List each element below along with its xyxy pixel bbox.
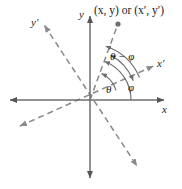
x-prime-axis-label: x′	[157, 58, 164, 69]
y-axis-label: y	[79, 9, 84, 20]
y-prime-axis-label: y′	[31, 17, 38, 28]
point-marker	[115, 21, 120, 26]
theta-minus-phi-angle-label: θ − φ	[110, 51, 134, 62]
x-prime-axis-line	[20, 66, 154, 126]
point-label: (x, y) or (x′, y′)	[94, 5, 164, 17]
coordinate-rotation-diagram: x y x′ y′ (x, y) or (x′, y′) θ φ θ − φ	[0, 0, 182, 189]
diagram-canvas	[0, 0, 182, 189]
phi-angle-label: φ	[128, 82, 134, 93]
x-axis-label: x	[162, 104, 167, 115]
theta-angle-label: θ	[106, 84, 111, 95]
